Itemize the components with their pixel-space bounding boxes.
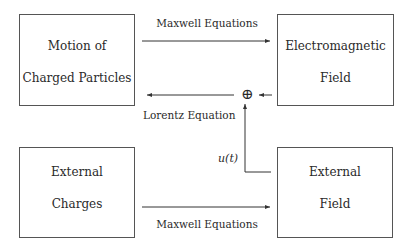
box-line: Field bbox=[278, 197, 392, 211]
box-line: Charges bbox=[20, 197, 134, 211]
external-charges-box: External Charges bbox=[19, 147, 135, 238]
control-input-arrow bbox=[245, 104, 271, 172]
motion-of-charged-particles-box: Motion of Charged Particles bbox=[19, 14, 135, 106]
control-input-label: u(t) bbox=[218, 152, 238, 165]
box-line: Motion of bbox=[20, 39, 134, 53]
electromagnetic-field-box: Electromagnetic Field bbox=[277, 14, 394, 106]
box-line: Electromagnetic bbox=[278, 39, 393, 53]
bottom-maxwell-label: Maxwell Equations bbox=[142, 218, 272, 230]
box-line: External bbox=[278, 165, 392, 179]
external-field-box: External Field bbox=[277, 147, 393, 238]
lorentz-label: Lorentz Equation bbox=[143, 109, 223, 121]
sum-junction-icon: ⊕ bbox=[241, 87, 254, 102]
box-line: External bbox=[20, 165, 134, 179]
box-line: Charged Particles bbox=[20, 71, 134, 85]
top-maxwell-label: Maxwell Equations bbox=[142, 17, 272, 29]
box-line: Field bbox=[278, 71, 393, 85]
